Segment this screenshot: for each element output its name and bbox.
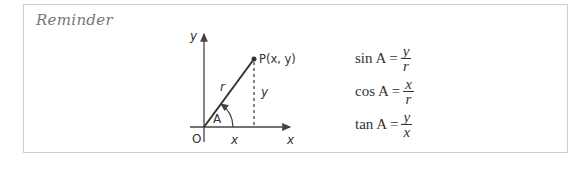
numerator: x — [403, 77, 414, 92]
origin-label: O — [192, 132, 201, 146]
formula-lhs: cos A = — [355, 83, 400, 100]
point-label: P(x, y) — [259, 52, 296, 66]
hypotenuse-line — [204, 59, 254, 127]
formula-tan: tan A = y x — [355, 108, 414, 141]
fraction: y r — [401, 44, 412, 73]
angle-arc — [221, 104, 233, 127]
formula-lhs: tan A = — [355, 116, 398, 133]
x-axis-label: x — [286, 133, 295, 147]
fraction: y x — [401, 110, 412, 139]
point-p — [252, 57, 257, 62]
trig-diagram: y x O P(x, y) r y x A — [0, 0, 582, 172]
denominator: r — [404, 92, 414, 106]
fraction: x r — [403, 77, 414, 106]
denominator: x — [401, 125, 412, 139]
denominator: r — [401, 59, 411, 73]
horizontal-label: x — [230, 133, 239, 147]
formula-lhs: sin A = — [355, 50, 398, 67]
vertical-label: y — [260, 85, 269, 99]
y-axis-label: y — [189, 29, 198, 43]
numerator: y — [401, 110, 412, 125]
hypotenuse-label: r — [220, 80, 226, 94]
angle-label: A — [213, 112, 222, 126]
numerator: y — [401, 44, 412, 59]
formula-cos: cos A = x r — [355, 75, 414, 108]
trig-formulas: sin A = y r cos A = x r tan A = y x — [355, 42, 414, 141]
formula-sin: sin A = y r — [355, 42, 414, 75]
